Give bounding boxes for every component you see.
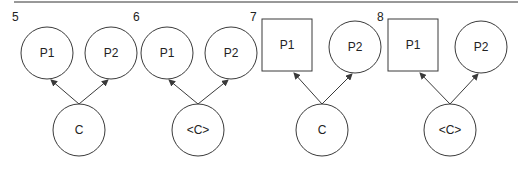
node-label: P2	[348, 40, 363, 54]
node-label: P2	[474, 40, 489, 54]
panel-number: 8	[377, 10, 384, 24]
edge-arrow	[420, 73, 450, 104]
node-label: P1	[160, 46, 175, 60]
diagram-canvas: 5 P1 P2 C 6 P1 P2 <C> 7 P1 P2 C 8 P1	[0, 0, 520, 169]
node-label: P1	[40, 46, 55, 60]
node-label: <C>	[187, 123, 210, 137]
node-label: <C>	[439, 123, 462, 137]
node-label: P1	[280, 38, 295, 52]
edge-arrow	[51, 80, 79, 104]
panel-8: 8 P1 P2 <C>	[377, 10, 507, 156]
node-label: C	[75, 123, 84, 137]
edge-arrow	[198, 80, 228, 104]
panel-number: 7	[250, 10, 257, 24]
panel-6: 6 P1 P2 <C>	[133, 10, 257, 156]
node-label: C	[318, 123, 327, 137]
panel-7: 7 P1 P2 C	[250, 10, 381, 156]
node-label: P1	[406, 38, 421, 52]
edge-arrow	[294, 73, 322, 104]
panel-5: 5 P1 P2 C	[12, 10, 137, 156]
edge-arrow	[79, 80, 108, 104]
edge-arrow	[450, 74, 478, 104]
edge-arrow	[322, 74, 352, 104]
panel-number: 5	[12, 10, 19, 24]
edge-arrow	[169, 80, 198, 104]
node-label: P2	[224, 46, 239, 60]
node-label: P2	[104, 46, 119, 60]
panel-number: 6	[133, 10, 140, 24]
